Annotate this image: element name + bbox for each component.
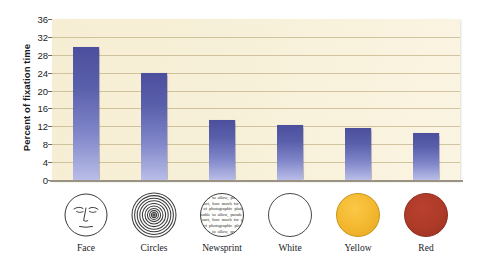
- red-circle-icon-swatch: [404, 193, 448, 237]
- yellow-circle-icon-swatch: [336, 193, 380, 237]
- gridline: [52, 144, 460, 145]
- y-tick-label: 0: [4, 175, 48, 186]
- face-icon: [48, 190, 124, 240]
- category-cell-circles: Circles: [116, 190, 192, 253]
- gridline: [52, 162, 460, 163]
- newsprint-sample-text: unable to allow, parade the Court, how m…: [200, 195, 244, 237]
- gridline: [52, 91, 460, 92]
- newsprint-icon: unable to allow, parade the Court, how m…: [184, 190, 260, 240]
- y-tick-label: 36: [4, 14, 48, 25]
- x-axis-line: [50, 180, 463, 182]
- y-tick-label: 28: [4, 49, 48, 60]
- gridline: [52, 108, 460, 109]
- y-tick-label: 12: [4, 121, 48, 132]
- y-tick-label: 32: [4, 31, 48, 42]
- bar-yellow: [345, 128, 371, 180]
- gridline: [52, 55, 460, 56]
- category-label: Newsprint: [184, 243, 260, 253]
- circles-icon: [116, 190, 192, 240]
- bar-newsprint: [209, 120, 235, 180]
- bar-face: [73, 47, 99, 180]
- y-tick-label: 8: [4, 139, 48, 150]
- white-circle-icon-swatch: [268, 193, 312, 237]
- fixation-time-bar-chart: Percent of fixation time 048121620242832…: [0, 0, 478, 270]
- bar-red: [413, 133, 439, 180]
- yellow-circle-icon: [320, 190, 396, 240]
- plot-area: [52, 19, 460, 181]
- category-icon-row: FaceCirclesunable to allow, parade the C…: [0, 190, 478, 270]
- category-label: Red: [388, 243, 464, 253]
- white-circle-icon: [252, 190, 328, 240]
- category-label: Face: [48, 243, 124, 253]
- y-tick-label: 24: [4, 67, 48, 78]
- y-tick-label: 16: [4, 103, 48, 114]
- category-cell-face: Face: [48, 190, 124, 253]
- gridline: [52, 73, 460, 74]
- category-cell-red: Red: [388, 190, 464, 253]
- red-circle-icon: [388, 190, 464, 240]
- gridline: [52, 126, 460, 127]
- bar-white: [277, 125, 303, 180]
- y-tick-label: 20: [4, 85, 48, 96]
- category-cell-white: White: [252, 190, 328, 253]
- category-label: Yellow: [320, 243, 396, 253]
- category-cell-newsprint: unable to allow, parade the Court, how m…: [184, 190, 260, 253]
- category-label: White: [252, 243, 328, 253]
- category-cell-yellow: Yellow: [320, 190, 396, 253]
- category-label: Circles: [116, 243, 192, 253]
- gridline: [52, 37, 460, 38]
- y-tick-label: 4: [4, 157, 48, 168]
- bar-circles: [141, 73, 167, 180]
